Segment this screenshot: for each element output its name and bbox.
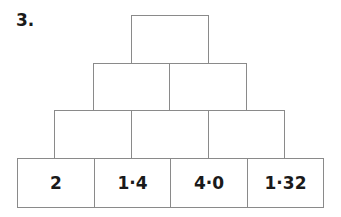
pyramid-cell-top[interactable] — [131, 15, 209, 64]
pyramid-cell-row3-1[interactable] — [54, 110, 132, 159]
pyramid-cell-row2-2[interactable] — [169, 63, 247, 111]
pyramid-base-cell-2: 1·4 — [94, 158, 171, 208]
question-number: 3. — [16, 10, 34, 30]
pyramid-base-cell-4: 1·32 — [247, 158, 324, 208]
pyramid-cell-row3-3[interactable] — [208, 110, 285, 159]
pyramid-cell-row2-1[interactable] — [93, 63, 170, 111]
pyramid-cell-row3-2[interactable] — [131, 110, 209, 159]
pyramid-base-cell-1: 2 — [17, 158, 95, 208]
pyramid-base-cell-3: 4·0 — [170, 158, 248, 208]
